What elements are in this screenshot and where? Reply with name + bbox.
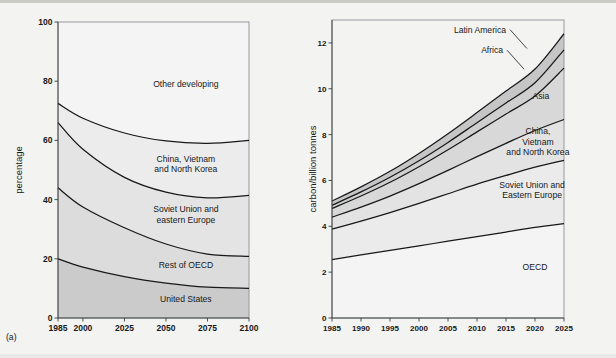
y-tick-label: 40 bbox=[43, 195, 53, 205]
leader-line-africa bbox=[507, 50, 524, 69]
band-label-oecd: OECD bbox=[523, 262, 548, 272]
x-tick-label: 2075 bbox=[198, 323, 217, 333]
y-tick-label: 6 bbox=[322, 176, 327, 185]
area-chart-b: 0246810121985199019952000200520102015202… bbox=[300, 0, 616, 358]
band-label-china-vietnam-and-north-korea: and North Korea bbox=[154, 164, 217, 174]
y-tick-label: 4 bbox=[322, 222, 327, 231]
x-tick-label: 2000 bbox=[73, 323, 92, 333]
y-tick-label: 20 bbox=[43, 254, 53, 264]
x-tick-label: 1995 bbox=[381, 324, 399, 333]
band-label-africa: Africa bbox=[481, 45, 503, 55]
chart-panel-b: 0246810121985199019952000200520102015202… bbox=[300, 0, 616, 358]
band-label-rest-of-oecd: Rest of OECD bbox=[159, 260, 213, 270]
band-label-china-vietnam-and-north-korea: and North Korea bbox=[506, 147, 569, 157]
band-group bbox=[332, 34, 564, 318]
figure-container: 020406080100198520002025205020752100perc… bbox=[0, 0, 616, 358]
y-tick-label: 60 bbox=[43, 135, 53, 145]
y-axis: 020406080100 bbox=[38, 17, 58, 323]
chart-panel-a: 020406080100198520002025205020752100perc… bbox=[0, 0, 300, 358]
band-label-china-vietnam-and-north-korea: Vietnam bbox=[522, 137, 553, 147]
x-tick-label: 2005 bbox=[439, 324, 457, 333]
x-tick-label: 2000 bbox=[410, 324, 428, 333]
band-label-soviet-union-and-eastern-europe: eastern Europe bbox=[157, 215, 216, 225]
y-axis: 024681012 bbox=[318, 39, 332, 323]
x-tick-label: 1990 bbox=[352, 324, 370, 333]
y-tick-label: 0 bbox=[322, 314, 327, 323]
band-label-china-vietnam-and-north-korea: China, Vietnam bbox=[157, 154, 216, 164]
y-tick-label: 8 bbox=[322, 131, 327, 140]
y-axis-title: percentage bbox=[13, 146, 24, 194]
x-tick-label: 2020 bbox=[526, 324, 544, 333]
y-tick-label: 10 bbox=[318, 85, 327, 94]
band-label-soviet-union-and-eastern-europe: Soviet Union and bbox=[499, 180, 565, 190]
x-tick-label: 2010 bbox=[468, 324, 486, 333]
x-axis: 198519901995200020052010201520202025 bbox=[323, 318, 573, 333]
panel-tag: (a) bbox=[6, 332, 17, 342]
band-label-china-vietnam-and-north-korea: China, bbox=[525, 126, 550, 136]
x-tick-label: 2100 bbox=[240, 323, 259, 333]
y-tick-label: 2 bbox=[322, 268, 327, 277]
band-label-other-developing: Other developing bbox=[153, 79, 219, 89]
y-tick-label: 80 bbox=[43, 76, 53, 86]
band-label-soviet-union-and-eastern-europe: Eastern Europe bbox=[502, 190, 562, 200]
band-label-latin-america: Latin America bbox=[454, 25, 506, 35]
leader-line-latin-america bbox=[510, 30, 527, 49]
area-chart-a: 020406080100198520002025205020752100perc… bbox=[0, 0, 300, 358]
x-tick-label: 1985 bbox=[323, 324, 341, 333]
x-tick-label: 2015 bbox=[497, 324, 515, 333]
y-tick-label: 100 bbox=[38, 17, 52, 27]
y-tick-label: 0 bbox=[48, 313, 53, 323]
y-tick-label: 12 bbox=[318, 39, 327, 48]
x-tick-label: 2025 bbox=[115, 323, 134, 333]
y-axis-title: carbon/billion tonnes bbox=[307, 125, 318, 212]
x-tick-label: 2025 bbox=[555, 324, 573, 333]
x-tick-label: 1985 bbox=[49, 323, 68, 333]
band-label-soviet-union-and-eastern-europe: Soviet Union and bbox=[153, 204, 219, 214]
band-label-united-states: United States bbox=[160, 294, 212, 304]
band-label-asia: Asia bbox=[532, 91, 549, 101]
x-axis: 198520002025205020752100 bbox=[49, 318, 259, 333]
x-tick-label: 2050 bbox=[156, 323, 175, 333]
